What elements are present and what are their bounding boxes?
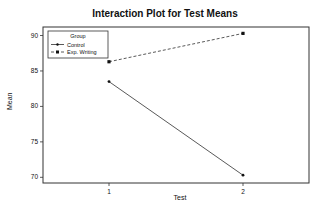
svg-text:70: 70 — [31, 173, 39, 180]
y-axis-ticks: 7075808590 — [31, 32, 43, 181]
series-lines — [107, 32, 244, 177]
svg-text:Group: Group — [70, 33, 85, 39]
svg-text:1: 1 — [107, 188, 111, 195]
svg-text:75: 75 — [31, 138, 39, 145]
interaction-plot: 7075808590 12 Group Control Exp. Writing — [0, 0, 330, 214]
svg-text:Control: Control — [67, 42, 85, 48]
svg-text:80: 80 — [31, 102, 39, 109]
y-axis-label: Mean — [6, 92, 13, 110]
svg-text:85: 85 — [31, 67, 39, 74]
svg-text:90: 90 — [31, 32, 39, 39]
svg-text:2: 2 — [241, 188, 245, 195]
legend: Group Control Exp. Writing — [48, 31, 108, 58]
x-axis-label: Test — [150, 194, 210, 201]
svg-text:Exp. Writing: Exp. Writing — [67, 49, 97, 55]
